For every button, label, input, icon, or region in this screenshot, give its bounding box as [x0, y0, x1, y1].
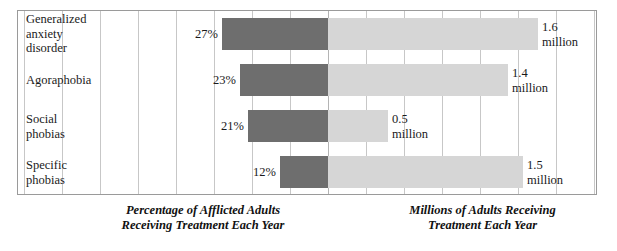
axis-label-right: Millions of Adults Receiving Treatment E…: [360, 203, 605, 233]
bar-value-percentage: 21%: [221, 119, 244, 134]
bar-millions: [328, 156, 523, 188]
bar-millions: [328, 110, 388, 142]
anxiety-treatment-chart: Generalized anxiety disorder 27% 1.6 mil…: [0, 0, 617, 251]
table-row: Agoraphobia 23% 1.4 million: [18, 57, 596, 103]
table-row: Generalized anxiety disorder 27% 1.6 mil…: [18, 11, 596, 57]
bar-value-percentage: 12%: [253, 165, 276, 180]
bar-percentage: [240, 64, 328, 96]
axis-label-left: Percentage of Afflicted Adults Receiving…: [78, 203, 328, 233]
bar-value-millions: 1.5 million: [527, 158, 563, 187]
bar-value-millions: 0.5 million: [392, 112, 428, 141]
bar-value-millions: 1.4 million: [512, 66, 548, 95]
bar-percentage: [280, 156, 328, 188]
bar-percentage: [248, 110, 328, 142]
bar-value-millions: 1.6 million: [542, 20, 578, 49]
table-row: Specific phobias 12% 1.5 million: [18, 149, 596, 195]
row-category-label: Specific phobias: [26, 158, 108, 187]
bar-percentage: [222, 18, 328, 50]
bar-value-percentage: 27%: [195, 27, 218, 42]
row-category-label: Generalized anxiety disorder: [26, 12, 108, 56]
bar-millions: [328, 64, 508, 96]
bar-value-percentage: 23%: [213, 73, 236, 88]
row-category-label: Social phobias: [26, 112, 108, 141]
table-row: Social phobias 21% 0.5 million: [18, 103, 596, 149]
bar-millions: [328, 18, 538, 50]
row-category-label: Agoraphobia: [26, 73, 108, 88]
plot-area: Generalized anxiety disorder 27% 1.6 mil…: [17, 10, 597, 195]
